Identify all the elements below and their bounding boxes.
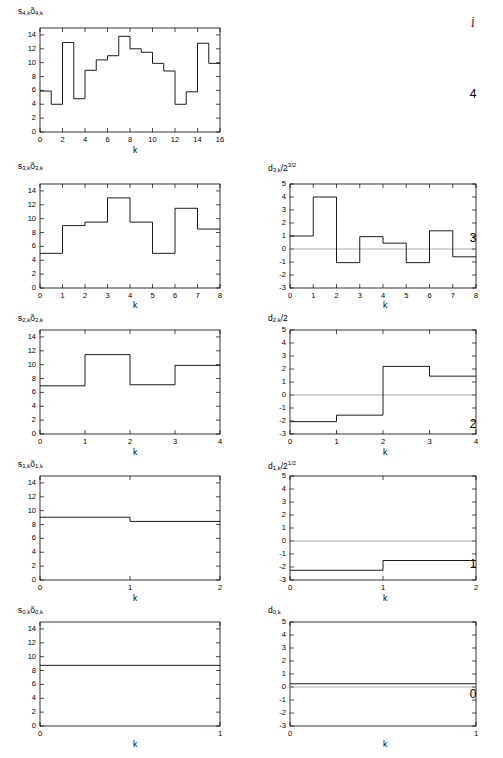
svg-text:10: 10 [28, 214, 36, 223]
svg-text:0: 0 [38, 291, 42, 300]
plot-d0: -3-2-101234501 [258, 604, 488, 744]
svg-text:6: 6 [105, 135, 109, 144]
svg-text:-1: -1 [279, 257, 286, 266]
svg-text:10: 10 [148, 135, 156, 144]
xlabel-s3: k [45, 301, 225, 310]
svg-text:-3: -3 [279, 283, 286, 292]
svg-text:4: 4 [282, 484, 286, 493]
svg-text:12: 12 [28, 44, 36, 53]
svg-text:0: 0 [282, 390, 286, 399]
svg-text:-1: -1 [279, 695, 286, 704]
svg-text:6: 6 [427, 291, 431, 300]
svg-text:4: 4 [32, 547, 36, 556]
svg-text:0: 0 [282, 244, 286, 253]
svg-text:2: 2 [218, 583, 222, 592]
svg-text:-2: -2 [279, 270, 286, 279]
svg-text:14: 14 [28, 186, 36, 195]
svg-text:2: 2 [60, 135, 64, 144]
xlabel-d1: k [295, 594, 475, 603]
ylabel-s2: s2,kõ2,k [18, 314, 43, 323]
ylabel-d1: d1,k/21/2 [268, 460, 296, 471]
svg-text:0: 0 [38, 729, 42, 738]
ylabel-s4: s4,kõ4,k [18, 7, 43, 16]
svg-text:1: 1 [311, 291, 315, 300]
svg-text:1: 1 [282, 669, 286, 678]
panel-s4: s4,kõ4,k 024681012140246810121416 k [0, 0, 230, 150]
svg-text:-2: -2 [279, 416, 286, 425]
xlabel-d2: k [295, 448, 475, 457]
svg-text:5: 5 [150, 291, 154, 300]
svg-text:12: 12 [28, 492, 36, 501]
svg-text:0: 0 [38, 437, 42, 446]
svg-text:0: 0 [288, 583, 292, 592]
svg-text:2: 2 [32, 113, 36, 122]
ylabel-s1: s1,kõ1,k [18, 460, 43, 469]
svg-text:2: 2 [32, 561, 36, 570]
svg-text:12: 12 [28, 346, 36, 355]
svg-text:2: 2 [83, 291, 87, 300]
svg-text:12: 12 [171, 135, 179, 144]
ylabel-s0: s0,kõ0,k [18, 606, 43, 615]
svg-text:6: 6 [32, 679, 36, 688]
svg-text:2: 2 [32, 269, 36, 278]
svg-text:5: 5 [404, 291, 408, 300]
svg-text:-3: -3 [279, 721, 286, 730]
svg-text:3: 3 [282, 351, 286, 360]
j-column-header: j [463, 16, 483, 27]
svg-text:0: 0 [32, 721, 36, 730]
svg-text:5: 5 [282, 179, 286, 188]
svg-text:4: 4 [128, 291, 132, 300]
svg-text:10: 10 [28, 58, 36, 67]
svg-text:4: 4 [32, 99, 36, 108]
svg-text:8: 8 [32, 374, 36, 383]
svg-text:3: 3 [173, 437, 177, 446]
svg-text:0: 0 [288, 291, 292, 300]
svg-text:14: 14 [28, 624, 36, 633]
svg-text:0: 0 [38, 135, 42, 144]
ylabel-d2: d2,k/2 [268, 314, 288, 323]
svg-text:1: 1 [334, 437, 338, 446]
xlabel-d3: k [295, 301, 475, 310]
svg-text:8: 8 [32, 520, 36, 529]
j-level-4: 4 [463, 88, 483, 100]
svg-text:3: 3 [427, 437, 431, 446]
svg-text:-2: -2 [279, 562, 286, 571]
plot-s1: 02468101214012 [0, 458, 230, 598]
xlabel-s2: k [45, 448, 225, 457]
svg-text:6: 6 [32, 533, 36, 542]
svg-text:1: 1 [381, 583, 385, 592]
svg-text:-3: -3 [279, 429, 286, 438]
ylabel-d3: d3,k/23/2 [268, 162, 296, 173]
svg-text:2: 2 [282, 510, 286, 519]
svg-text:12: 12 [28, 200, 36, 209]
svg-text:7: 7 [195, 291, 199, 300]
svg-text:10: 10 [28, 506, 36, 515]
svg-text:4: 4 [381, 291, 385, 300]
panel-d3: d3,k/23/2 -3-2-1012345012345678 k [258, 160, 488, 305]
svg-text:16: 16 [216, 135, 224, 144]
plot-s3: 02468101214012345678 [0, 160, 230, 305]
svg-text:2: 2 [474, 583, 478, 592]
svg-text:1: 1 [282, 523, 286, 532]
plot-d2: -3-2-101234501234 [258, 312, 488, 452]
svg-text:-3: -3 [279, 575, 286, 584]
svg-text:12: 12 [28, 638, 36, 647]
svg-text:5: 5 [282, 617, 286, 626]
svg-text:4: 4 [32, 401, 36, 410]
svg-text:4: 4 [282, 192, 286, 201]
panel-d0: d0,k -3-2-101234501 k [258, 604, 488, 744]
svg-text:4: 4 [474, 437, 478, 446]
svg-text:8: 8 [218, 291, 222, 300]
svg-text:1: 1 [60, 291, 64, 300]
svg-text:5: 5 [282, 325, 286, 334]
svg-text:1: 1 [282, 231, 286, 240]
svg-text:2: 2 [282, 656, 286, 665]
panel-d1: d1,k/21/2 -3-2-1012345012 k [258, 458, 488, 598]
ylabel-s3: s3,kõ3,k [18, 162, 43, 171]
svg-text:1: 1 [282, 377, 286, 386]
svg-text:0: 0 [282, 682, 286, 691]
svg-text:0: 0 [38, 583, 42, 592]
svg-text:0: 0 [288, 729, 292, 738]
svg-text:5: 5 [282, 471, 286, 480]
svg-text:1: 1 [218, 729, 222, 738]
